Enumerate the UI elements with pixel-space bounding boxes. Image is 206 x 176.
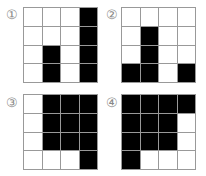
filled-cell xyxy=(141,64,159,82)
panel-label: ③ xyxy=(6,96,18,109)
filled-cell xyxy=(122,133,140,151)
panel-label: ④ xyxy=(106,96,118,109)
empty-cell xyxy=(141,8,159,26)
filled-cell xyxy=(178,64,196,82)
empty-cell xyxy=(178,8,196,26)
filled-cell xyxy=(61,114,79,132)
filled-cell xyxy=(159,133,177,151)
empty-cell xyxy=(24,64,42,82)
pixel-grid xyxy=(121,7,196,83)
empty-cell xyxy=(43,27,61,45)
filled-cell xyxy=(80,95,98,113)
pixel-grid xyxy=(23,94,98,170)
filled-cell xyxy=(80,133,98,151)
empty-cell xyxy=(178,151,196,169)
empty-cell xyxy=(61,46,79,64)
empty-cell xyxy=(24,46,42,64)
filled-cell xyxy=(43,64,61,82)
empty-cell xyxy=(122,46,140,64)
empty-cell xyxy=(159,151,177,169)
filled-cell xyxy=(141,95,159,113)
filled-cell xyxy=(178,95,196,113)
empty-cell xyxy=(43,151,61,169)
filled-cell xyxy=(122,114,140,132)
empty-cell xyxy=(122,27,140,45)
filled-cell xyxy=(141,46,159,64)
empty-cell xyxy=(122,8,140,26)
filled-cell xyxy=(43,46,61,64)
empty-cell xyxy=(178,46,196,64)
empty-cell xyxy=(43,8,61,26)
empty-cell xyxy=(24,95,42,113)
filled-cell xyxy=(80,27,98,45)
empty-cell xyxy=(24,27,42,45)
empty-cell xyxy=(61,8,79,26)
filled-cell xyxy=(61,95,79,113)
panel-label: ① xyxy=(6,8,18,21)
filled-cell xyxy=(141,133,159,151)
filled-cell xyxy=(159,95,177,113)
filled-cell xyxy=(80,114,98,132)
empty-cell xyxy=(159,46,177,64)
empty-cell xyxy=(24,151,42,169)
filled-cell xyxy=(122,151,140,169)
empty-cell xyxy=(178,114,196,132)
empty-cell xyxy=(61,27,79,45)
filled-cell xyxy=(43,133,61,151)
filled-cell xyxy=(122,64,140,82)
filled-cell xyxy=(80,46,98,64)
empty-cell xyxy=(24,133,42,151)
empty-cell xyxy=(178,133,196,151)
pixel-grid xyxy=(121,94,196,170)
empty-cell xyxy=(61,64,79,82)
filled-cell xyxy=(141,27,159,45)
empty-cell xyxy=(159,64,177,82)
empty-cell xyxy=(24,114,42,132)
panel-label: ② xyxy=(106,8,118,21)
filled-cell xyxy=(43,114,61,132)
empty-cell xyxy=(61,151,79,169)
filled-cell xyxy=(122,95,140,113)
filled-cell xyxy=(141,114,159,132)
filled-cell xyxy=(159,114,177,132)
empty-cell xyxy=(24,8,42,26)
filled-cell xyxy=(61,133,79,151)
empty-cell xyxy=(141,151,159,169)
empty-cell xyxy=(159,27,177,45)
filled-cell xyxy=(80,151,98,169)
empty-cell xyxy=(159,8,177,26)
pixel-grid xyxy=(23,7,98,83)
empty-cell xyxy=(178,27,196,45)
filled-cell xyxy=(80,8,98,26)
filled-cell xyxy=(80,64,98,82)
filled-cell xyxy=(43,95,61,113)
